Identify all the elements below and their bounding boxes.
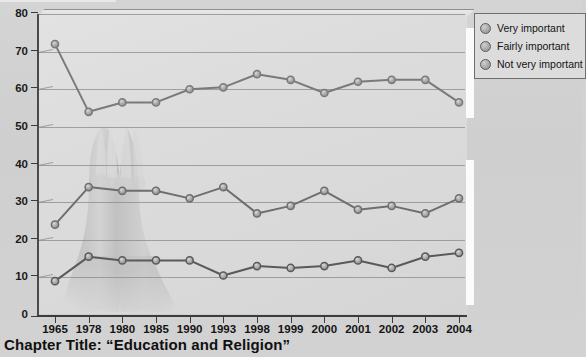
legend-item-very-important[interactable]: Very important	[480, 19, 581, 37]
gridline	[39, 240, 465, 241]
y-axis-tick-mark	[31, 12, 38, 13]
y-axis-tick-mark	[31, 125, 38, 126]
x-axis-line	[37, 315, 467, 317]
y-axis-tick-mark	[31, 316, 38, 317]
gridline	[39, 14, 465, 15]
y-axis-tick-label: 60	[0, 83, 28, 95]
gridline	[39, 52, 465, 53]
legend-item-fairly-important[interactable]: Fairly important	[480, 37, 581, 55]
y-axis-tick-label: 30	[0, 196, 28, 208]
y-axis-tick-label: 40	[0, 159, 28, 171]
y-axis-tick-mark	[31, 50, 38, 51]
y-axis-line	[37, 14, 39, 316]
y-axis-tick-mark	[31, 238, 38, 239]
y-axis-tick-label: 70	[0, 46, 28, 58]
legend-item-label: Fairly important	[497, 41, 569, 52]
circle-marker-icon	[480, 59, 491, 70]
x-axis-tick-label: 2004	[437, 324, 481, 336]
praying-hands-icon	[45, 110, 207, 314]
gridline	[39, 165, 465, 166]
legend-item-label: Very important	[497, 23, 565, 34]
y-axis-tick-label: 10	[0, 271, 28, 283]
scan-artifact-strip	[466, 28, 474, 118]
cut-off-title-remnant	[0, 0, 582, 6]
y-axis-tick-label: 80	[0, 8, 28, 20]
y-axis-tick-label: 0	[0, 309, 28, 321]
circle-marker-icon	[480, 23, 491, 34]
gridline	[39, 277, 465, 278]
gridline	[39, 202, 465, 203]
legend-item-not-very-important[interactable]: Not very important	[480, 55, 581, 73]
gridline	[39, 89, 465, 90]
legend-item-label: Not very important	[497, 59, 583, 70]
y-axis-tick-mark	[31, 200, 38, 201]
legend: Very importantFairly importantNot very i…	[474, 13, 586, 79]
y-axis-tick-mark	[31, 163, 38, 164]
plot-area	[38, 14, 467, 314]
circle-marker-icon	[480, 41, 491, 52]
y-axis-tick-label: 50	[0, 121, 28, 133]
gridline	[39, 127, 465, 128]
chapter-title-caption: Chapter Title: “Education and Religion”	[4, 336, 290, 353]
y-axis-tick-mark	[31, 87, 38, 88]
y-axis-tick-mark	[31, 275, 38, 276]
y-axis-tick-label: 20	[0, 234, 28, 246]
scan-artifact-strip	[466, 160, 474, 305]
